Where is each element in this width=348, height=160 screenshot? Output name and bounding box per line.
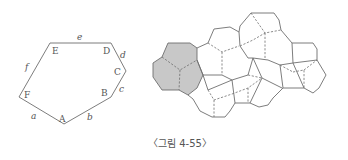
vertex-label-E: E [52, 46, 59, 56]
side-label-e: e [77, 32, 82, 42]
vertex-label-F: F [24, 90, 30, 100]
vertex-label-A: A [58, 114, 66, 124]
labeled-hexagon: A B C D E F a b c d e f [19, 32, 126, 124]
side-label-d: d [120, 50, 126, 60]
vertex-label-C: C [114, 67, 121, 77]
side-label-b: b [87, 112, 93, 122]
figure-caption: 〈그림 4-55〉 [0, 135, 348, 150]
pentagon-tiling [153, 13, 326, 117]
caption-text: 〈그림 4-55〉 [136, 135, 212, 150]
side-label-c: c [119, 84, 124, 94]
tiling-outline [188, 13, 326, 117]
side-label-f: f [24, 62, 30, 72]
vertex-label-B: B [101, 88, 108, 98]
side-label-a: a [31, 111, 36, 121]
vertex-label-D: D [103, 46, 110, 56]
